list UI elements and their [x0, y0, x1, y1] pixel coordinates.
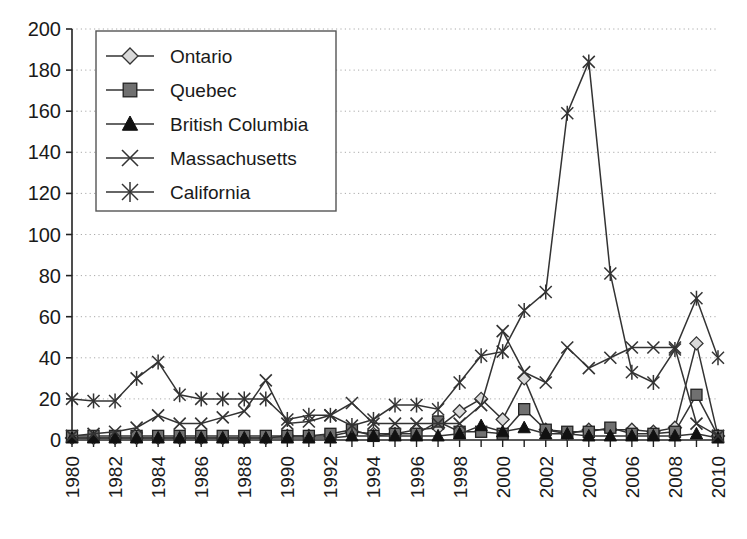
y-tick-label: 20	[39, 388, 61, 410]
chart-legend: OntarioQuebecBritish ColumbiaMassachuset…	[96, 31, 336, 211]
data-point-marker-square	[123, 83, 137, 97]
y-tick-label: 80	[39, 265, 61, 287]
x-tick-label: 1990	[277, 456, 298, 498]
legend-label: California	[170, 182, 251, 203]
legend-label: British Columbia	[170, 114, 309, 135]
x-tick-label: 1992	[320, 456, 341, 498]
data-point-marker-square	[519, 404, 530, 415]
legend-label: Ontario	[170, 46, 232, 67]
y-tick-label: 160	[28, 100, 61, 122]
x-tick-label: 1984	[148, 456, 169, 499]
x-tick-label: 2004	[579, 456, 600, 499]
legend-label: Massachusetts	[170, 148, 297, 169]
x-tick-label: 2010	[708, 456, 729, 498]
x-tick-label: 1996	[407, 456, 428, 498]
line-chart: 020406080100120140160180200 198019821984…	[0, 0, 747, 539]
x-tick-label: 1986	[191, 456, 212, 498]
y-tick-label: 0	[50, 429, 61, 451]
y-tick-label: 120	[28, 182, 61, 204]
y-tick-label: 100	[28, 224, 61, 246]
y-tick-label: 200	[28, 18, 61, 40]
y-tick-label: 180	[28, 59, 61, 81]
x-tick-label: 2008	[665, 456, 686, 498]
x-tick-label: 1980	[62, 456, 83, 498]
x-tick-label: 1998	[450, 456, 471, 498]
x-tick-label: 1982	[105, 456, 126, 498]
x-tick-label: 2000	[493, 456, 514, 498]
x-tick-label: 2002	[536, 456, 557, 498]
legend-label: Quebec	[170, 80, 237, 101]
chart-container: 020406080100120140160180200 198019821984…	[0, 0, 747, 539]
y-tick-label: 140	[28, 141, 61, 163]
y-tick-label: 40	[39, 347, 61, 369]
x-tick-label: 2006	[622, 456, 643, 498]
x-tick-label: 1988	[234, 456, 255, 498]
data-point-marker-square	[691, 389, 702, 400]
data-point-marker-square	[433, 416, 444, 427]
x-tick-label: 1994	[363, 456, 384, 499]
y-tick-label: 60	[39, 306, 61, 328]
